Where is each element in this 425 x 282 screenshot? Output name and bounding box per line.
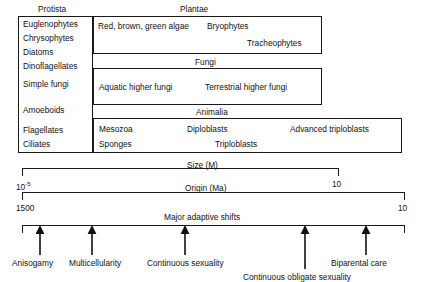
origin-scale-right-tick: 10	[398, 203, 407, 213]
scale-title-origin: Origin (Ma)	[185, 183, 227, 193]
protista-taxon-amoeboids: Amoeboids	[23, 105, 65, 115]
protista-taxon-ciliates: Ciliates	[23, 139, 50, 149]
plantae-taxon-tracheophytes: Tracheophytes	[247, 38, 302, 48]
size-scale-left-tick: 10-5	[16, 179, 31, 192]
origin-scale-left-tick: 1500	[16, 203, 34, 213]
arrow-head-multicellularity	[88, 225, 97, 234]
shift-label-continuous-sexuality: Continuous sexuality	[147, 258, 224, 268]
scale-title-size: Size (M)	[187, 160, 218, 170]
scale-title-adaptive-shifts: Major adaptive shifts	[164, 212, 240, 222]
plantae-taxon-bryophytes: Bryophytes	[207, 21, 249, 31]
size-scale-bracket	[23, 169, 339, 177]
plantae-taxon-algae: Red, brown, green algae	[98, 21, 189, 31]
animalia-taxon-triploblasts: Triploblasts	[215, 139, 257, 149]
arrow-head-continuous-sexuality	[181, 225, 190, 234]
protista-taxon-flagellates: Flagellates	[23, 125, 63, 135]
arrow-head-biparental-care	[362, 225, 371, 234]
protista-taxon-chrysophytes: Chrysophytes	[23, 33, 74, 43]
protista-taxon-euglenophytes: Euglenophytes	[23, 19, 78, 29]
kingdom-header-plantae: Plantae	[180, 4, 208, 14]
protista-taxon-dinoflagellates: Dinoflagellates	[23, 61, 77, 71]
arrow-head-anisogamy	[36, 225, 45, 234]
protista-taxon-simple-fungi: Simple fungi	[23, 79, 69, 89]
arrow-head-continuous-obligate-sexuality	[301, 225, 310, 234]
size-left-tick-base: 10	[16, 182, 25, 192]
adaptive-shifts-bracket	[23, 226, 405, 234]
fungi-taxon-aquatic-higher-fungi: Aquatic higher fungi	[99, 82, 172, 92]
animalia-taxon-diploblasts: Diploblasts	[187, 124, 228, 134]
animalia-taxon-sponges: Sponges	[99, 139, 132, 149]
shift-label-continuous-obligate-sexuality: Continuous obligate sexuality	[243, 272, 351, 282]
animalia-taxon-mesozoa: Mesozoa	[99, 124, 133, 134]
shift-label-multicellularity: Multicellularity	[69, 258, 121, 268]
size-left-tick-exponent: -5	[25, 181, 30, 187]
animalia-taxon-advanced-triploblasts: Advanced triploblasts	[290, 124, 369, 134]
size-scale-right-tick: 10	[332, 179, 341, 189]
shift-label-biparental-care: Biparental care	[331, 258, 387, 268]
kingdom-header-protista: Protista	[38, 4, 66, 14]
shift-label-anisogamy: Anisogamy	[12, 258, 53, 268]
protista-taxon-diatoms: Diatoms	[23, 47, 53, 57]
kingdom-header-animalia: Animalia	[196, 107, 228, 117]
origin-scale-bracket	[23, 193, 405, 201]
fungi-taxon-terrestrial-higher-fungi: Terrestrial higher fungi	[205, 82, 287, 92]
kingdom-header-fungi: Fungi	[195, 57, 216, 67]
